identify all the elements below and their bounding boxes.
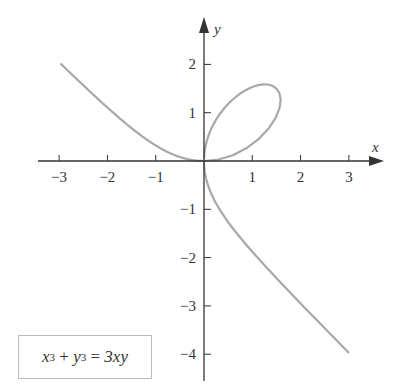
- y-tick-label: −3: [180, 298, 196, 314]
- x-tick-label: 2: [297, 169, 305, 185]
- x-tick-label: 1: [249, 169, 257, 185]
- y-tick-label: −4: [180, 346, 196, 362]
- y-tick-label: 1: [189, 105, 197, 121]
- x-axis-arrow-icon: [369, 156, 384, 166]
- eq-equals: =: [91, 347, 101, 367]
- x-tick-label: 3: [345, 169, 353, 185]
- eq-y: y: [73, 347, 81, 367]
- x-axis-label: x: [371, 139, 379, 155]
- equation-label-box: x3 + y3 = 3xy: [18, 335, 152, 379]
- eq-exp2: 3: [81, 351, 87, 363]
- y-tick-label: 2: [189, 56, 197, 72]
- y-tick-label: −2: [180, 250, 196, 266]
- x-tick-label: −1: [148, 169, 164, 185]
- folium-plot: xy−3−2−112321−1−2−3−4: [0, 0, 395, 391]
- eq-plus: +: [59, 347, 69, 367]
- eq-x: x: [42, 347, 50, 367]
- y-axis-arrow-icon: [199, 17, 209, 33]
- y-axis-label: y: [212, 21, 221, 37]
- y-tick-label: −1: [180, 201, 196, 217]
- eq-rhs: 3xy: [104, 347, 128, 367]
- x-tick-label: −2: [99, 169, 115, 185]
- x-tick-label: −3: [51, 169, 67, 185]
- folium-curve: [60, 63, 349, 353]
- eq-exp1: 3: [50, 351, 56, 363]
